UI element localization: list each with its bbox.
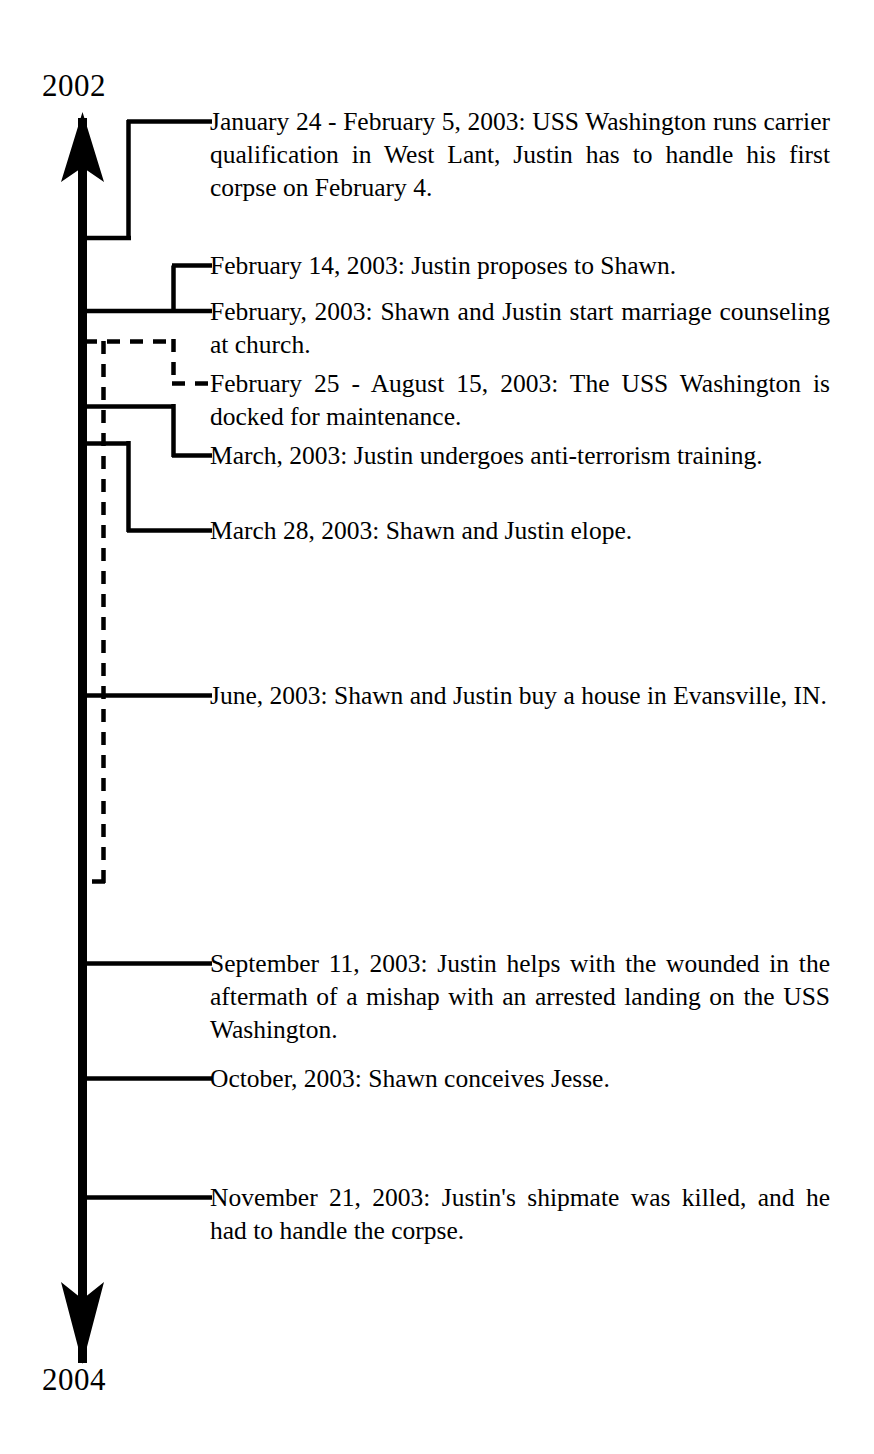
event-text-jan-24-feb-5-2003: January 24 - February 5, 2003: USS Washi… [210, 105, 830, 204]
connector-feb-14-2003 [172, 266, 212, 313]
event-text-march-28-2003: March 28, 2003: Shawn and Justin elope. [210, 514, 830, 547]
event-text-feb-14-2003: February 14, 2003: Justin proposes to Sh… [210, 249, 830, 282]
timeline-arrow-down-icon [61, 1268, 104, 1364]
timeline-arrow-up-icon [61, 112, 104, 196]
event-text-feb-2003: February, 2003: Shawn and Justin start m… [210, 295, 830, 361]
event-text-feb-25-aug-15-2003: February 25 - August 15, 2003: The USS W… [210, 367, 830, 433]
connector-feb-25-aug-15-2003 [84, 339, 212, 883]
timeline-diagram: 2002 2004 [0, 0, 874, 1454]
event-text-nov-21-2003: November 21, 2003: Justin's shipmate was… [210, 1181, 830, 1247]
event-text-october-2003: October, 2003: Shawn conceives Jesse. [210, 1062, 830, 1095]
event-text-june-2003: June, 2003: Shawn and Justin buy a house… [210, 679, 830, 712]
event-text-sept-11-2003: September 11, 2003: Justin helps with th… [210, 947, 830, 1046]
timeline-axis-shaft [78, 118, 87, 1363]
event-text-march-2003: March, 2003: Justin undergoes anti-terro… [210, 439, 830, 472]
